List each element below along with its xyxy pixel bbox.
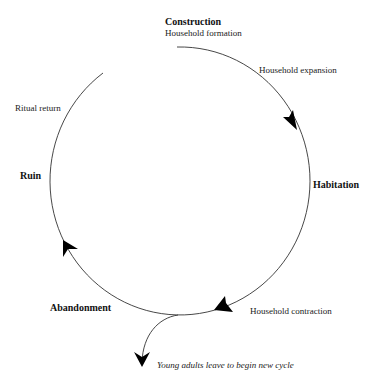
- cycle-diagram: [0, 0, 371, 385]
- arrow-icon: [283, 110, 297, 130]
- stage-construction: Construction: [165, 17, 221, 27]
- branch-young-adults: Young adults leave to begin new cycle: [157, 360, 294, 370]
- stage-ruin: Ruin: [20, 171, 41, 181]
- stage-habitation: Habitation: [313, 180, 359, 190]
- cycle-arc: [50, 47, 310, 315]
- stage-construction-sublabel: Household formation: [165, 28, 242, 38]
- arrow-icon: [63, 240, 78, 257]
- transition-ritual-return: Ritual return: [15, 103, 61, 113]
- transition-household-contraction: Household contraction: [250, 306, 332, 316]
- stage-abandonment: Abandonment: [50, 303, 111, 313]
- transition-household-expansion: Household expansion: [259, 65, 337, 75]
- arrow-icon: [214, 296, 233, 312]
- arrow-icon: [134, 352, 150, 367]
